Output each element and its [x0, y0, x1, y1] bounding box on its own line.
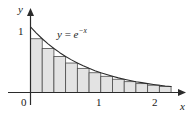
- y-axis-label: y: [18, 4, 23, 15]
- riemann-rectangle: [159, 87, 171, 93]
- riemann-rectangle: [31, 39, 43, 93]
- curve-equation-label: y = e−x: [57, 27, 87, 40]
- x-axis-label: x: [180, 101, 185, 112]
- riemann-rectangle: [101, 76, 113, 92]
- riemann-rectangle: [124, 82, 136, 93]
- origin-label: 0: [21, 97, 27, 108]
- riemann-rectangle: [54, 56, 66, 92]
- riemann-rectangle: [113, 79, 125, 92]
- curve-eq-exponent: −x: [79, 26, 87, 35]
- riemann-rectangle: [66, 63, 78, 92]
- riemann-rectangle: [42, 49, 54, 93]
- x-tick-label-2: 2: [152, 97, 158, 108]
- riemann-rectangle: [148, 85, 160, 92]
- riemann-rectangle: [136, 84, 148, 93]
- y-axis-arrow-icon: [27, 8, 34, 16]
- y-tick-label-1: 1: [18, 26, 24, 37]
- figure-container: y x 1 0 1 2 y = e−x: [0, 0, 193, 123]
- x-tick-label-1: 1: [96, 97, 102, 108]
- x-axis-arrow-icon: [178, 89, 186, 96]
- riemann-rectangle: [77, 68, 89, 92]
- riemann-rectangle: [89, 73, 101, 93]
